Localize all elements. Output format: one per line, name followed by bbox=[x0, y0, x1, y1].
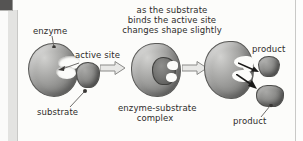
scan-corner-artifact bbox=[0, 0, 13, 11]
process-arrow-1 bbox=[100, 61, 126, 75]
complex-label-line-2: complex bbox=[118, 114, 192, 124]
enzyme-leader-line bbox=[44, 36, 60, 48]
active-site-leader-line bbox=[58, 60, 80, 72]
page-left-margin bbox=[0, 10, 8, 141]
complex-cleft-upper bbox=[167, 61, 178, 70]
enzyme-reaction-figure: as the substrate binds the active site c… bbox=[0, 0, 303, 141]
product-bottom-leader-line bbox=[259, 104, 275, 118]
header-caption-line-3: changes shape slightly bbox=[112, 26, 232, 36]
page-binding-strip bbox=[8, 10, 18, 141]
complex-cleft-lower bbox=[166, 73, 177, 82]
product-shape-top bbox=[258, 56, 280, 77]
active-site-label: active site bbox=[75, 51, 120, 61]
product-label-top: product bbox=[252, 45, 285, 55]
substrate-label: substrate bbox=[37, 108, 78, 118]
page-right-rule bbox=[295, 0, 296, 141]
release-arrow-bottom bbox=[236, 74, 258, 90]
product-label-bottom: product bbox=[233, 117, 266, 127]
substrate-leader-line bbox=[68, 89, 90, 109]
release-arrow-top bbox=[238, 62, 260, 74]
